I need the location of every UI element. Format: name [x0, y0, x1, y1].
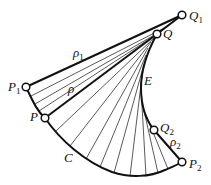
point-q-marker [153, 30, 161, 38]
point-p1-label: P1 [7, 79, 20, 96]
curve-e-label: E [143, 73, 152, 88]
diagram-canvas: C E Q1QP1PQ2P2ρ1ρρ2 [0, 0, 211, 185]
point-p1-marker [22, 83, 30, 91]
diagram-svg: C E Q1QP1PQ2P2ρ1ρρ2 [0, 0, 211, 185]
thin-normal-lines [31, 26, 168, 176]
rho1-label: ρ1 [72, 45, 84, 62]
curve-c-involute [26, 87, 182, 176]
thin-normal-line [114, 64, 144, 173]
point-p-marker [41, 114, 49, 122]
point-q-label: Q [163, 26, 173, 41]
point-p2-marker [178, 158, 186, 166]
rho2-label: ρ2 [169, 134, 181, 151]
point-q2-marker [150, 126, 158, 134]
point-q1-label: Q1 [189, 8, 203, 25]
curve-c-label: C [64, 150, 73, 165]
points [22, 11, 186, 166]
rho-segment [45, 34, 157, 118]
point-p-label: P [29, 109, 38, 124]
rho-label: ρ [67, 81, 74, 96]
point-p2-label: P2 [188, 156, 201, 173]
rho1-segment [26, 15, 182, 87]
point-q1-marker [178, 11, 186, 19]
labels: C E Q1QP1PQ2P2ρ1ρρ2 [7, 8, 203, 173]
